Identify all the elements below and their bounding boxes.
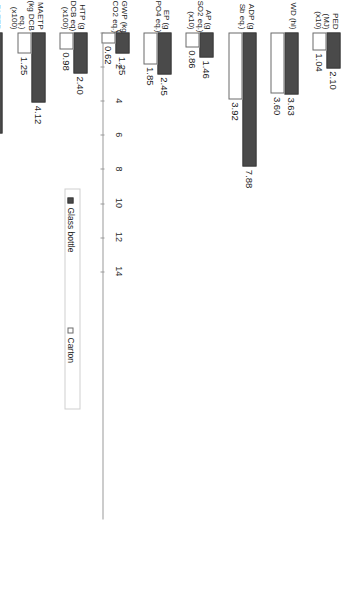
bar-value-label: 3.60 bbox=[271, 96, 282, 115]
bar-0 bbox=[73, 32, 87, 73]
category-label-line: PO4 eq.) bbox=[152, 0, 161, 29]
bar-1 bbox=[143, 32, 157, 64]
category-label: PED(MJ)(x10) bbox=[312, 0, 338, 29]
category-label-line: CO2 eq.) bbox=[110, 0, 119, 29]
legend-item[interactable]: Glass bottle bbox=[65, 197, 75, 252]
bar-1 bbox=[228, 32, 242, 99]
category-label-line: GWP (kg bbox=[118, 0, 127, 29]
bar-value-label: 1.25 bbox=[116, 56, 127, 75]
category-label-line: SO2 eq.) bbox=[194, 0, 203, 29]
bar-0 bbox=[242, 32, 256, 166]
category-label-line: (kg DCB bbox=[25, 0, 34, 29]
bar-1 bbox=[312, 32, 326, 50]
category-label: GWP (kgCO2 eq.) bbox=[110, 0, 127, 29]
category-label-line: (x10) bbox=[186, 0, 195, 29]
category-label: MAETP(kg DCBeq.)(x100) bbox=[8, 0, 42, 29]
bar-value-label: 1.25 bbox=[18, 56, 29, 75]
bar-0 bbox=[284, 32, 298, 94]
category-label: AP (gSO2 eq.)(x10) bbox=[186, 0, 212, 29]
legend-label: Glass bottle bbox=[65, 207, 75, 252]
category-label-line: (x100) bbox=[59, 0, 68, 29]
bar-value-label: 0.86 bbox=[186, 50, 197, 69]
bar-0 bbox=[326, 32, 340, 68]
category-label: HTP (gDCB eq)(x100) bbox=[59, 0, 85, 29]
bar-value-label: 2.10 bbox=[327, 71, 338, 90]
category-label: ADP (gSb eq.) bbox=[236, 0, 253, 29]
bar-1 bbox=[101, 32, 115, 43]
bar-value-label: 1.04 bbox=[313, 53, 324, 72]
bar-value-label: 7.88 bbox=[243, 169, 254, 188]
legend-label: Carton bbox=[65, 337, 75, 363]
bar-1 bbox=[185, 32, 199, 47]
bar-0 bbox=[0, 32, 2, 133]
bar-1 bbox=[270, 32, 284, 93]
rotated-figure: 02468101214 2.101.043.633.607.883.921.46… bbox=[0, 0, 346, 599]
bar-value-label: 1.85 bbox=[144, 67, 155, 86]
plot-area: 02468101214 2.101.043.633.607.883.921.46… bbox=[0, 0, 346, 599]
category-label-line: WD (hl) bbox=[287, 0, 296, 29]
bar-value-label: 0.62 bbox=[102, 46, 113, 65]
bar-value-label: 3.63 bbox=[285, 97, 296, 116]
bar-value-label: 1.46 bbox=[200, 60, 211, 79]
category-label: WD (hl) bbox=[287, 0, 296, 29]
category-label-line: (x100) bbox=[8, 0, 17, 29]
bar-value-label: 4.12 bbox=[32, 105, 43, 124]
category-label: EP (gPO4 eq.) bbox=[152, 0, 169, 29]
bar-value-label: 3.92 bbox=[229, 102, 240, 121]
bar-1 bbox=[17, 32, 31, 53]
bar-value-label: 0.98 bbox=[60, 52, 71, 71]
category-label-line: HTP (g bbox=[76, 0, 85, 29]
bar-1 bbox=[59, 32, 73, 49]
bar-0 bbox=[199, 32, 213, 57]
category-label-line: Sb eq.) bbox=[236, 0, 245, 29]
legend-item[interactable]: Carton bbox=[65, 327, 75, 363]
bar-value-label: 2.45 bbox=[158, 77, 169, 96]
bar-0 bbox=[115, 32, 129, 53]
category-label-line: (x10) bbox=[312, 0, 321, 29]
bar-0 bbox=[157, 32, 171, 74]
category-label-line: PED bbox=[329, 0, 338, 29]
chart-canvas: 02468101214 2.101.043.633.607.883.921.46… bbox=[0, 0, 346, 599]
bar-value-label: 2.40 bbox=[74, 76, 85, 95]
bar-groups: 2.101.043.633.607.883.921.460.862.451.85… bbox=[0, 32, 346, 519]
legend-swatch-icon bbox=[67, 197, 73, 203]
bar-0 bbox=[31, 32, 45, 102]
chart-legend: Glass bottleCarton bbox=[64, 188, 80, 409]
legend-swatch-icon bbox=[67, 327, 73, 333]
